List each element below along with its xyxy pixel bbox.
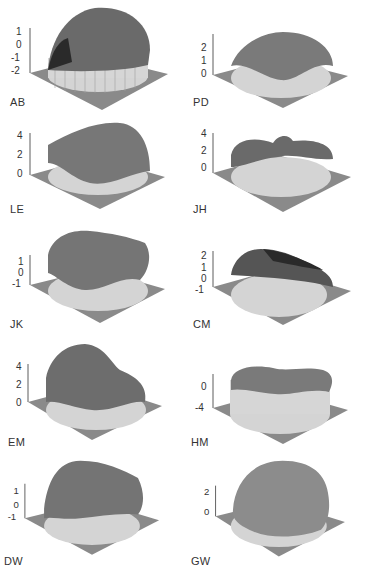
- z-tick: 0: [13, 499, 18, 510]
- plot-panel-dw: 1 0 -1 DW: [0, 455, 183, 570]
- z-tick: 0: [201, 162, 207, 173]
- surface-plot: 0 -4: [183, 340, 366, 455]
- plot-panel-cm: 2 1 0 -1 CM: [183, 225, 366, 340]
- z-tick: -2: [11, 65, 20, 76]
- z-tick: 2: [201, 145, 207, 156]
- z-tick: 0: [16, 397, 22, 408]
- panel-label: LE: [10, 203, 24, 215]
- panel-label: CM: [193, 318, 211, 330]
- z-tick: 4: [17, 130, 23, 141]
- plot-panel-em: 4 2 0 EM: [0, 340, 183, 455]
- panel-label: AB: [10, 96, 25, 108]
- z-tick: 0: [17, 168, 23, 179]
- surface-plot: 2 1 0: [183, 0, 366, 115]
- z-tick: -1: [12, 278, 21, 289]
- z-tick: 2: [201, 42, 207, 53]
- z-tick: 4: [201, 128, 207, 139]
- z-tick: 1: [201, 55, 207, 66]
- panel-label: HM: [191, 436, 209, 448]
- plot-panel-ab: 1 0 -1 -2 AB: [0, 0, 183, 115]
- z-tick: 2: [201, 250, 207, 261]
- plot-panel-jk: 1 0 -1 JK: [0, 225, 183, 340]
- z-tick: 2: [16, 379, 22, 390]
- surface-plot: 1 0 -1: [0, 225, 183, 340]
- z-tick: 0: [18, 267, 24, 278]
- z-tick: 0: [204, 506, 209, 517]
- plot-panel-pd: 2 1 0 PD: [183, 0, 366, 115]
- panel-label: EM: [8, 436, 25, 448]
- plot-panel-gw: 2 0 GW: [183, 455, 366, 570]
- z-tick: 4: [16, 361, 22, 372]
- surface-plot: 4 2 0: [0, 115, 183, 230]
- z-tick: -1: [195, 284, 204, 295]
- plot-panel-le: 4 2 0 LE: [0, 115, 183, 230]
- z-tick: 0: [16, 39, 22, 50]
- z-tick: 2: [204, 486, 209, 497]
- panel-label: JH: [193, 203, 207, 215]
- surface-plot: 4 2 0: [183, 115, 366, 230]
- z-tick: 0: [201, 381, 207, 392]
- plot-panel-jh: 4 2 0 JH: [183, 115, 366, 230]
- z-tick: 1: [16, 26, 22, 37]
- panel-label: JK: [10, 318, 23, 330]
- panel-label: PD: [193, 96, 209, 108]
- z-tick: 2: [17, 149, 23, 160]
- z-tick: -4: [195, 402, 204, 413]
- plot-panel-hm: 0 -4 HM: [183, 340, 366, 455]
- z-tick: -1: [8, 511, 17, 522]
- z-tick: 0: [201, 68, 207, 79]
- z-tick: 1: [13, 485, 18, 496]
- z-tick: 0: [201, 273, 207, 284]
- panel-label: GW: [191, 555, 211, 567]
- panel-label: DW: [4, 555, 23, 567]
- z-tick: -1: [11, 52, 20, 63]
- z-tick: 1: [201, 262, 207, 273]
- surface-plot: 1 0 -1 -2: [0, 0, 183, 115]
- surface-plot: 2 0: [183, 455, 366, 570]
- z-tick: 1: [18, 256, 24, 267]
- surface-plot: 1 0 -1: [0, 455, 183, 570]
- surface-plot: 4 2 0: [0, 340, 183, 455]
